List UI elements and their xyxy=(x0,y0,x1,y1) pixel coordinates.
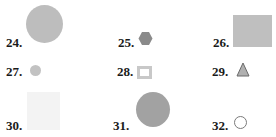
large-circle-icon xyxy=(26,5,63,43)
square-outline-icon xyxy=(137,66,152,79)
item-number: 24. xyxy=(6,36,22,49)
item-number: 27. xyxy=(6,65,22,78)
triangle-icon xyxy=(236,62,250,77)
rectangle-icon xyxy=(233,15,272,47)
hexagon-icon xyxy=(138,31,153,46)
item-number: 30. xyxy=(6,119,22,132)
large-dark-circle-icon xyxy=(136,92,170,127)
pale-square-icon xyxy=(27,92,60,130)
item-number: 25. xyxy=(118,36,134,49)
small-circle-icon xyxy=(30,65,41,76)
item-number: 31. xyxy=(113,119,129,132)
item-number: 29. xyxy=(212,65,228,78)
item-number: 26. xyxy=(213,36,229,49)
item-number: 28. xyxy=(117,65,133,78)
item-number: 32. xyxy=(212,119,228,132)
circle-outline-icon xyxy=(234,116,247,129)
